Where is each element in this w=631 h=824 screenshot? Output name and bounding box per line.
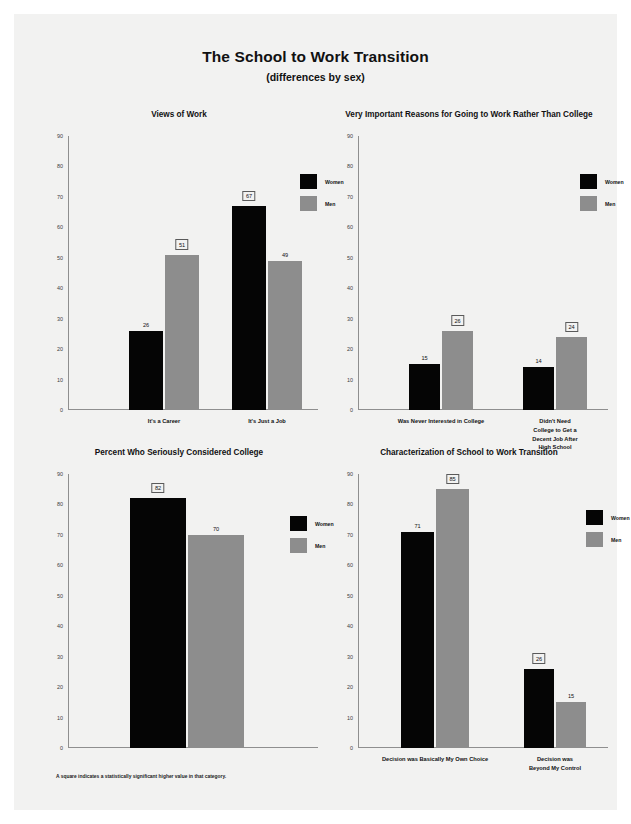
- bar-value-label: 24: [565, 322, 578, 332]
- legend-swatch-women: [290, 516, 307, 531]
- legend-swatch-women: [300, 174, 317, 189]
- y-axis-tick-label: 80: [57, 163, 63, 169]
- y-axis-tick-label: 40: [57, 623, 63, 629]
- y-axis-tick-label: 90: [347, 471, 353, 477]
- legend-swatch-men: [586, 532, 603, 547]
- y-axis-tick-label: 20: [57, 346, 63, 352]
- y-axis-tick-label: 10: [347, 377, 353, 383]
- category-label: It's a Career: [148, 417, 180, 426]
- title-block: The School to Work Transition (differenc…: [14, 48, 617, 83]
- y-axis-tick-label: 10: [57, 377, 63, 383]
- bar-value-label: 26: [532, 653, 545, 663]
- bar-men: 26: [442, 331, 473, 410]
- chart-title: Characterization of School to Work Trans…: [326, 448, 612, 457]
- bar-value-label: 67: [242, 191, 255, 201]
- y-axis-tick-label: 90: [57, 133, 63, 139]
- chart-panel-considered-college: Percent Who Seriously Considered College…: [36, 448, 322, 788]
- y-axis-tick-label: 90: [347, 133, 353, 139]
- y-axis-tick-label: 70: [57, 532, 63, 538]
- y-axis-line: [68, 136, 69, 410]
- plot-area: 01020304050607080908270WomenMen: [68, 474, 318, 748]
- legend-swatch-men: [300, 196, 317, 211]
- y-axis-tick-label: 0: [60, 745, 63, 751]
- y-axis-tick-label: 20: [57, 684, 63, 690]
- y-axis-line: [358, 474, 359, 748]
- y-axis-tick-label: 80: [347, 501, 353, 507]
- bar-men: 24: [556, 337, 587, 410]
- y-axis-tick-label: 30: [57, 654, 63, 660]
- y-axis-tick-label: 60: [347, 562, 353, 568]
- legend-swatch-men: [290, 538, 307, 553]
- legend-label-men: Men: [611, 537, 621, 543]
- bar-value-label: 71: [414, 523, 420, 529]
- footnote: A square indicates a statistically signi…: [56, 774, 226, 779]
- bar-value-label: 26: [143, 322, 149, 328]
- plot-area: 01020304050607080902651It's a Career6749…: [68, 136, 318, 410]
- y-axis-tick-label: 10: [347, 715, 353, 721]
- bar-value-label: 85: [446, 474, 459, 484]
- y-axis-tick-label: 30: [347, 316, 353, 322]
- chart-panel-reasons-for-work: Very Important Reasons for Going to Work…: [326, 110, 612, 450]
- bar-value-label: 51: [175, 239, 188, 249]
- y-axis-tick-label: 60: [347, 224, 353, 230]
- plot-area: 01020304050607080907185Decision was Basi…: [358, 474, 608, 748]
- y-axis-tick-label: 50: [347, 593, 353, 599]
- legend-swatch-women: [586, 510, 603, 525]
- legend-label-women: Women: [605, 179, 624, 185]
- chart-title: Very Important Reasons for Going to Work…: [326, 110, 612, 119]
- bar-value-label: 26: [451, 315, 464, 325]
- bar-value-label: 49: [282, 252, 288, 258]
- plot-area: 01020304050607080901526Was Never Interes…: [358, 136, 608, 410]
- bar-men: 15: [556, 702, 586, 748]
- chart-panel-characterization: Characterization of School to Work Trans…: [326, 448, 612, 788]
- bar-value-label: 82: [151, 483, 164, 493]
- y-axis-tick-label: 60: [57, 562, 63, 568]
- y-axis-tick-label: 80: [57, 501, 63, 507]
- legend-swatch-women: [580, 174, 597, 189]
- page-subtitle: (differences by sex): [14, 71, 617, 83]
- bar-women: 71: [401, 532, 434, 748]
- y-axis-tick-label: 0: [350, 407, 353, 413]
- y-axis-line: [358, 136, 359, 410]
- bar-men: 49: [268, 261, 302, 410]
- bar-value-label: 14: [535, 358, 541, 364]
- bar-women: 67: [232, 206, 266, 410]
- legend-swatch-men: [580, 196, 597, 211]
- bar-men: 51: [165, 255, 199, 410]
- y-axis-tick-label: 0: [60, 407, 63, 413]
- bar-value-label: 15: [421, 355, 427, 361]
- legend-label-women: Women: [611, 515, 630, 521]
- y-axis-line: [68, 474, 69, 748]
- bar-value-label: 70: [213, 526, 219, 532]
- y-axis-tick-label: 70: [347, 194, 353, 200]
- y-axis-tick-label: 40: [347, 285, 353, 291]
- bar-men: 85: [436, 489, 469, 748]
- y-axis-tick-label: 90: [57, 471, 63, 477]
- bar-women: 26: [524, 669, 554, 748]
- bar-women: 82: [130, 498, 186, 748]
- y-axis-tick-label: 60: [57, 224, 63, 230]
- y-axis-tick-label: 50: [57, 593, 63, 599]
- category-label: Was Never Interested in College: [398, 417, 484, 426]
- y-axis-tick-label: 40: [57, 285, 63, 291]
- y-axis-tick-label: 80: [347, 163, 353, 169]
- category-label: Decision was Beyond My Control: [529, 755, 582, 773]
- y-axis-tick-label: 70: [347, 532, 353, 538]
- legend-label-men: Men: [315, 543, 325, 549]
- y-axis-tick-label: 20: [347, 346, 353, 352]
- legend-label-men: Men: [605, 201, 615, 207]
- y-axis-tick-label: 10: [57, 715, 63, 721]
- bar-value-label: 15: [568, 693, 574, 699]
- y-axis-tick-label: 0: [350, 745, 353, 751]
- y-axis-tick-label: 70: [57, 194, 63, 200]
- bar-women: 14: [523, 367, 554, 410]
- chart-title: Views of Work: [36, 110, 322, 119]
- chart-panel-views-of-work: Views of Work 01020304050607080902651It'…: [36, 110, 322, 450]
- poster-page: The School to Work Transition (differenc…: [14, 14, 617, 810]
- y-axis-tick-label: 30: [347, 654, 353, 660]
- category-label: It's Just a Job: [248, 417, 286, 426]
- y-axis-tick-label: 20: [347, 684, 353, 690]
- bar-women: 26: [129, 331, 163, 410]
- bar-men: 70: [188, 535, 244, 748]
- y-axis-tick-label: 50: [57, 255, 63, 261]
